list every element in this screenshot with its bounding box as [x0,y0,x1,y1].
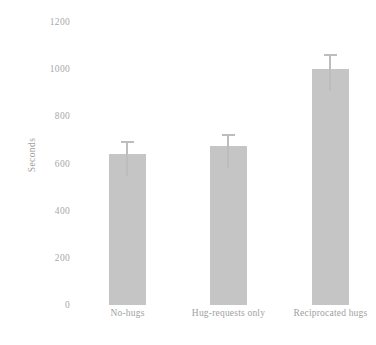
x-axis-tick-label: Reciprocated hugs [294,308,368,318]
bar-group [210,22,247,305]
y-axis-tick-label: 800 [24,111,70,121]
y-axis-tick-label: 200 [24,253,70,263]
error-bar-cap [222,134,235,136]
x-axis-tick-label: Hug-requests only [192,308,265,318]
error-bar [329,56,331,91]
error-bar-cap [121,141,134,143]
bar-chart: Seconds 020040060080010001200 No-hugsHug… [0,0,376,345]
y-axis-tick-label: 400 [24,206,70,216]
bar [312,69,349,305]
x-axis-tick-label: No-hugs [110,308,144,318]
bar-group [312,22,349,305]
x-axis-tick-labels: No-hugsHug-requests onlyReciprocated hug… [78,308,368,328]
bar-group [109,22,146,305]
error-bar-cap [324,54,337,56]
y-axis-tick-labels: 020040060080010001200 [22,22,70,305]
error-bar [126,143,128,176]
plot-area [78,22,368,305]
y-axis-tick-label: 1000 [24,64,70,74]
error-bar [227,136,229,167]
y-axis-tick-label: 0 [24,300,70,310]
bar [210,146,247,305]
y-axis-tick-label: 1200 [24,17,70,27]
y-axis-tick-label: 600 [24,159,70,169]
bar [109,154,146,305]
